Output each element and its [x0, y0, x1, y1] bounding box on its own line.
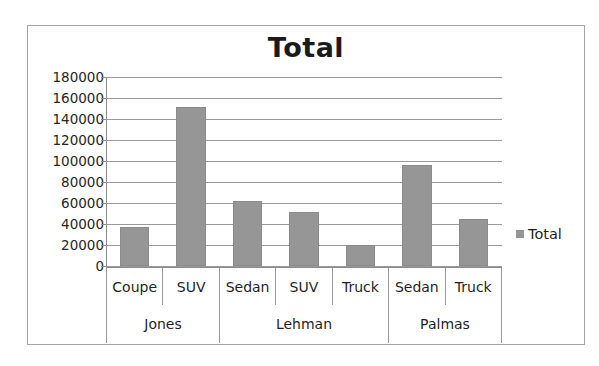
- y-tick-label: 40000: [30, 216, 104, 232]
- y-axis-tick-labels: 1800001600001400001200001000008000060000…: [28, 77, 104, 266]
- category-label: Sedan: [389, 268, 445, 305]
- category-label: SUV: [163, 268, 219, 305]
- category-label: Truck: [333, 268, 389, 305]
- category-label: SUV: [276, 268, 332, 305]
- gridline: [106, 140, 502, 141]
- y-tick-label: 80000: [30, 174, 104, 190]
- category-axis-row: CoupeSUVSedanSUVTruckSedanTruck: [106, 267, 502, 305]
- y-tick-label: 120000: [30, 132, 104, 148]
- gridline: [106, 203, 502, 204]
- group-label: Lehman: [220, 305, 389, 343]
- plot-area: [106, 77, 502, 266]
- gridline: [106, 182, 502, 183]
- y-tick-label: 60000: [30, 195, 104, 211]
- gridline: [106, 98, 502, 99]
- category-label: Truck: [446, 268, 502, 305]
- bar: [233, 201, 262, 266]
- chart-frame: Total 1800001600001400001200001000008000…: [27, 25, 585, 345]
- gridline: [106, 119, 502, 120]
- y-tick-label: 0: [30, 258, 104, 274]
- y-tick-label: 140000: [30, 111, 104, 127]
- bar: [346, 245, 375, 266]
- bar: [402, 165, 431, 266]
- bar: [289, 212, 318, 266]
- chart-legend: Total: [516, 226, 562, 242]
- category-label: Sedan: [220, 268, 276, 305]
- legend-label-total: Total: [528, 226, 562, 242]
- gridline: [106, 77, 502, 78]
- bar: [176, 107, 205, 266]
- legend-swatch-total-icon: [516, 230, 524, 238]
- y-tick-label: 20000: [30, 237, 104, 253]
- bar: [120, 227, 149, 266]
- category-label: Coupe: [106, 268, 163, 305]
- bar: [459, 219, 488, 266]
- group-label: Palmas: [389, 305, 502, 343]
- chart-title: Total: [28, 32, 584, 63]
- y-tick-label: 180000: [30, 69, 104, 85]
- y-tick-label: 160000: [30, 90, 104, 106]
- gridline: [106, 161, 502, 162]
- y-tick-label: 100000: [30, 153, 104, 169]
- group-label: Jones: [106, 305, 220, 343]
- group-axis-row: JonesLehmanPalmas: [106, 305, 502, 343]
